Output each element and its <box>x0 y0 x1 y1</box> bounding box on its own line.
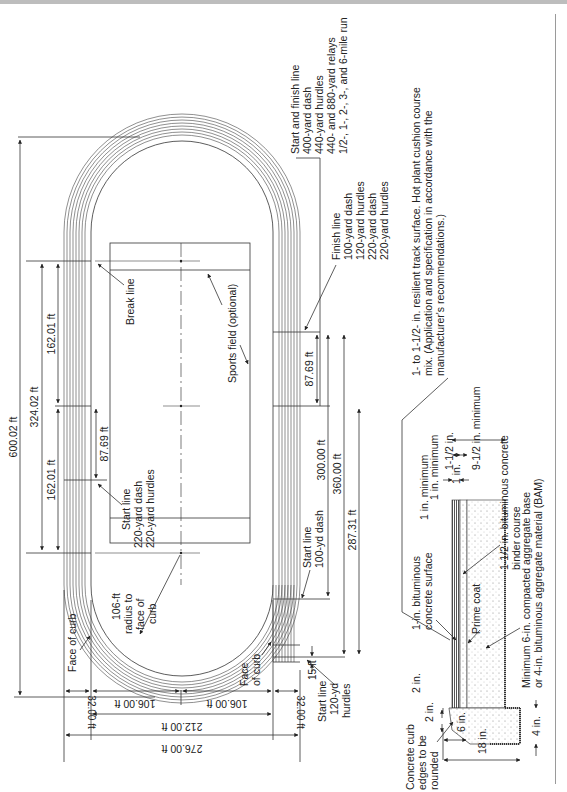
dim-162-lower: 162.01 ft <box>45 459 57 500</box>
label-start-120-2: 120-yd <box>328 683 340 715</box>
label-startfinish-2: 400-yard dash <box>301 87 313 154</box>
cs-prime-coat: Prime coat <box>470 584 482 634</box>
dim-162-upper: 162.01 ft <box>45 313 57 354</box>
surface-layer <box>452 500 460 708</box>
track-labels: Break line Sports field (optional) Start… <box>66 17 390 722</box>
dim-600: 600.02 ft <box>7 416 19 457</box>
label-startfinish-3: 440-yard hurdles <box>313 75 325 154</box>
cs-1in-min: 1 in. minimum <box>418 454 430 520</box>
label-face-right-2: of curb <box>250 654 262 686</box>
cs-surface-1: 1-in. bituminous <box>410 556 422 630</box>
track-drawing: 600.02 ft 324.02 ft 162.01 ft 162.01 ft … <box>0 0 567 792</box>
cs-2in-a: 2 in. <box>423 702 435 722</box>
right-dimensions: 87.69 ft 300.00 ft 360.00 ft 287.31 ft 1… <box>303 335 359 680</box>
label-finish-4: 220-yard dash <box>366 193 378 260</box>
label-face-right-1: Face <box>238 662 250 686</box>
label-startfinish-4: 440- and 880-yard relays <box>325 37 337 154</box>
cs-9-1-2: 9-1/2 in. minimum <box>470 386 482 470</box>
cs-surface-2: concrete surface <box>422 552 434 630</box>
label-break-line: Break line <box>124 278 136 325</box>
cs-18in: 18 in. <box>476 728 488 754</box>
cs-curb-note-3: rounded <box>428 751 440 790</box>
label-radius-2: radius to <box>122 594 134 634</box>
cs-curb-note-2: edges to be <box>416 735 428 790</box>
label-sports-field: Sports field (optional) <box>226 284 238 383</box>
track-lanes <box>64 114 300 703</box>
binder-layer <box>460 500 467 708</box>
cross-section: 1- to 1-1/2- in. resilient track surface… <box>402 87 544 790</box>
label-radius-4: curb <box>146 603 158 624</box>
cs-surface-note-3: manufacturer's recommendations.) <box>434 214 446 376</box>
cs-curb-note-1: Concrete curb <box>404 724 416 790</box>
dim-87-right: 87.69 ft <box>303 351 315 386</box>
dim-32-left: 32.00 ft <box>86 695 97 729</box>
label-startfinish-1: Start and finish line <box>289 65 301 154</box>
cs-base-1: Minimum 6-in. compacted aggregate base <box>520 492 532 688</box>
label-start-120-3: hurdles <box>340 684 352 718</box>
label-start-120-1: Start line <box>316 680 328 722</box>
dim-276: 276.00 ft <box>161 743 202 755</box>
label-radius-3: face of <box>134 598 146 630</box>
label-start-100-1: Start line <box>301 526 313 568</box>
dim-300: 300.00 ft <box>315 439 327 480</box>
label-finish-3: 120-yard hurdles <box>354 181 366 260</box>
label-startfinish-5: 1/2-, 1-, 2-, 3-, and 6-mile run <box>337 17 349 154</box>
dim-32-right: 32.00 ft <box>295 695 306 729</box>
dim-15: 15 ft <box>307 660 318 680</box>
dim-106-right: 106.00 ft <box>206 698 247 710</box>
label-radius-1: 106-ft <box>110 593 122 620</box>
cs-4in: 4 in. <box>530 716 542 736</box>
label-start-100-2: 100-yd dash <box>313 510 325 568</box>
label-face-of-curb-left: Face of curb <box>66 613 78 672</box>
dim-87-left: 87.69 ft <box>98 426 110 461</box>
label-start-220-3: 220-yard hurdles <box>144 469 156 548</box>
label-start-220-2: 220-yard dash <box>132 481 144 548</box>
label-finish-2: 100-yard dash <box>342 193 354 260</box>
dim-324: 324.02 ft <box>28 386 40 427</box>
label-finish-5: 220-yard hurdles <box>378 181 390 260</box>
dim-360: 360.00 ft <box>331 453 343 494</box>
dim-212: 212.00 ft <box>161 721 202 733</box>
dim-287: 287.31 ft <box>346 509 358 550</box>
label-start-220-1: Start line <box>120 488 132 530</box>
dim-106-left: 106.00 ft <box>114 698 155 710</box>
cs-surface-note-1: 1- to 1-1/2- in. resilient track surface… <box>410 87 422 376</box>
cs-1in: 1 in. <box>450 464 462 484</box>
cs-surface-note-2: mix. (Application and specification in a… <box>422 110 434 376</box>
cs-base-2: or 4-in. bituminous aggregate material (… <box>532 478 544 688</box>
chute-lanes <box>273 585 300 662</box>
cs-binder-1: 1-1/2 in. bituminous concrete <box>498 435 510 570</box>
cs-2in-b: 2 in. <box>410 673 422 693</box>
label-finish-1: Finish line <box>330 213 342 260</box>
long-axis-dimensions: 600.02 ft 324.02 ft 162.01 ft 162.01 ft … <box>7 140 110 695</box>
cs-6in: 6 in. <box>455 712 467 732</box>
